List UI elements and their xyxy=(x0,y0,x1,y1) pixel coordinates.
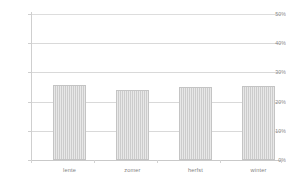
bar-herfst xyxy=(179,87,212,160)
gridline-30 xyxy=(31,72,281,73)
x-tick-mark-2 xyxy=(157,160,158,163)
x-label-zomer: zomer xyxy=(98,167,168,173)
x-label-winter: winter xyxy=(224,167,287,173)
bar-chart: 50% 40% 30% 20% 10% 0% lente zomer herfs… xyxy=(0,0,286,183)
x-tick-mark-3 xyxy=(220,160,221,163)
y-tick-label-10: 10% xyxy=(260,128,286,134)
gridline-50 xyxy=(31,14,281,15)
y-tick-label-40: 40% xyxy=(260,40,286,46)
y-tick-label-0: 0% xyxy=(260,157,286,163)
y-tick-label-50: 50% xyxy=(260,11,286,17)
y-tick-mark-40 xyxy=(28,43,31,44)
x-tick-mark-1 xyxy=(94,160,95,163)
x-label-herfst: herfst xyxy=(161,167,231,173)
y-tick-mark-20 xyxy=(28,102,31,103)
y-tick-label-30: 30% xyxy=(260,69,286,75)
bar-winter xyxy=(242,86,275,160)
bar-lente xyxy=(53,85,86,160)
gridline-40 xyxy=(31,43,281,44)
x-label-lente: lente xyxy=(35,167,105,173)
y-tick-label-20: 20% xyxy=(260,99,286,105)
x-axis-line xyxy=(30,160,282,161)
y-tick-mark-10 xyxy=(28,131,31,132)
y-axis-line xyxy=(31,12,32,162)
y-tick-mark-30 xyxy=(28,72,31,73)
bar-zomer xyxy=(116,90,149,160)
x-tick-mark-0 xyxy=(31,160,32,163)
y-tick-mark-50 xyxy=(28,14,31,15)
plot-area xyxy=(31,14,281,160)
x-tick-mark-4 xyxy=(281,160,282,163)
